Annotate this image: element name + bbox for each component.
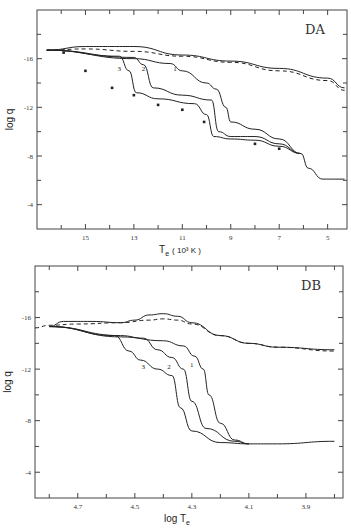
y-tick-label: -8: [25, 417, 31, 425]
x-tick-label: 15: [82, 234, 90, 242]
data-point: [254, 143, 257, 146]
series-line-upper-envelope-solid-: [49, 314, 334, 350]
series-line-upper-envelope-solid-: [47, 47, 345, 88]
data-point: [111, 87, 114, 90]
x-axis-label: Te( 10³ K ): [159, 244, 201, 257]
y-tick-label: -8: [27, 153, 33, 161]
y-tick-label: -4: [27, 201, 33, 209]
panel-tag: DA: [305, 22, 325, 37]
x-tick-label: 9: [229, 234, 233, 242]
curve-label-2: 2: [167, 363, 171, 371]
y-axis-label: log q: [2, 371, 13, 393]
x-tick-label: 4.7: [73, 503, 82, 511]
x-tick-label: 4.1: [245, 503, 254, 511]
y-axis-label: log q: [4, 109, 15, 131]
curve-label-2: 2: [142, 65, 146, 73]
data-point: [133, 94, 136, 97]
data-point: [181, 108, 184, 111]
data-point: [203, 121, 206, 124]
x-tick-label: 13: [130, 234, 138, 242]
plot-frame: [35, 266, 343, 498]
x-tick-label: 11: [179, 234, 186, 242]
y-tick-label: -4: [25, 469, 31, 477]
data-point: [157, 104, 160, 107]
series-line-1: [47, 50, 345, 179]
curve-label-1: 1: [190, 361, 194, 369]
curve-label-1: 1: [173, 65, 177, 73]
y-tick-label: -16: [24, 55, 34, 63]
x-axis-label: log Te: [164, 513, 190, 526]
x-tick-label: 5: [326, 234, 330, 242]
figure: 151311975-16-12-8-4log qTe( 10³ K )DA321…: [0, 0, 351, 528]
data-point: [278, 147, 281, 150]
x-tick-label: 7: [277, 234, 281, 242]
panel-db: 4.74.54.34.13.9-16-12-8-4log qlog TeDB32…: [2, 266, 343, 526]
panel-da: 151311975-16-12-8-4log qTe( 10³ K )DA321: [4, 10, 347, 257]
panel-tag: DB: [301, 278, 321, 293]
y-tick-label: -12: [22, 366, 32, 374]
x-tick-label: 4.3: [187, 503, 196, 511]
series-line-upper-envelope-dashed-: [47, 49, 345, 90]
x-tick-label: 4.5: [130, 503, 139, 511]
series-line-1: [49, 327, 334, 444]
data-point: [84, 70, 87, 73]
data-point: [62, 51, 65, 54]
y-tick-label: -12: [24, 104, 34, 112]
series-line-2: [49, 327, 249, 444]
curve-label-3: 3: [118, 65, 122, 73]
plot-frame: [37, 10, 347, 229]
series-line-3: [49, 327, 249, 444]
x-tick-label: 3.9: [302, 503, 311, 511]
y-tick-label: -16: [22, 314, 32, 322]
curve-label-3: 3: [142, 363, 146, 371]
